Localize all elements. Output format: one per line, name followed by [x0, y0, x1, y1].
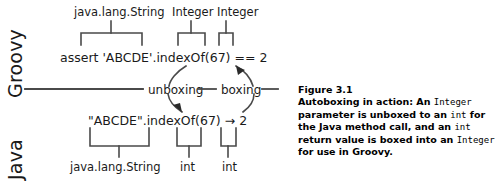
figure-autoboxing: Groovy Java java.lang.String Integer Int…: [0, 0, 502, 184]
caption-line2-text: parameter is unboxed to an: [298, 109, 450, 120]
bracket-java-string: [90, 128, 149, 146]
caption-line4-mono: Integer: [457, 135, 495, 145]
arrow-boxing-lower: [243, 94, 254, 112]
caption-line1-mono: Integer: [434, 97, 472, 107]
bracket-groovy-string: [81, 33, 142, 45]
caption-line3-mono: int: [454, 122, 470, 132]
caption-line5: in Groovy.: [339, 146, 393, 157]
caption-title: Figure 3.1: [298, 84, 498, 96]
caption-line3-tail: return: [298, 134, 332, 145]
bracket-java-int-arg: [177, 128, 201, 146]
figure-caption: Figure 3.1Autoboxing in action: An Integ…: [298, 84, 498, 158]
caption-line4-tail: for use: [298, 146, 336, 157]
bracket-groovy-integer-result: [219, 33, 233, 45]
bracket-java-int-result: [221, 128, 236, 146]
caption-line2-mono: int: [450, 110, 466, 120]
bracket-groovy-integer-arg: [178, 33, 205, 45]
caption-line1-text: Autoboxing in action: An: [298, 96, 434, 107]
caption-line4-text: value is boxed into an: [335, 134, 456, 145]
caption-line3-text: the Java method call, and an: [298, 121, 454, 132]
arrowhead-boxing: [236, 66, 245, 75]
caption-line2-tail: for: [467, 109, 486, 120]
arrow-unboxing-upper: [169, 66, 186, 86]
arrowhead-unboxing: [173, 103, 182, 112]
